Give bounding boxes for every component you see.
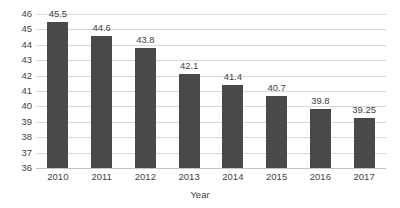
bar-value-label: 41.4 xyxy=(213,72,253,82)
x-axis-tick-label: 2016 xyxy=(298,172,342,182)
y-axis-tick-label: 40 xyxy=(2,101,32,111)
gridline xyxy=(36,76,386,77)
bar xyxy=(266,96,287,168)
x-axis-tick-label: 2011 xyxy=(80,172,124,182)
y-axis-tick-label: 45 xyxy=(2,24,32,34)
x-axis-tick-label: 2010 xyxy=(36,172,80,182)
y-axis-tick-label: 38 xyxy=(2,132,32,142)
plot-area xyxy=(36,14,386,168)
x-axis-title: Year xyxy=(0,189,400,200)
gridline xyxy=(36,60,386,61)
y-axis-tick-label: 41 xyxy=(2,86,32,96)
gridline xyxy=(36,122,386,123)
y-axis-tick-label: 42 xyxy=(2,71,32,81)
bar-value-label: 40.7 xyxy=(257,83,297,93)
y-axis-tick-label: 46 xyxy=(2,9,32,19)
gridline xyxy=(36,106,386,107)
bar xyxy=(91,36,112,168)
x-axis-tick-label: 2013 xyxy=(167,172,211,182)
y-axis-tick-label: 39 xyxy=(2,117,32,127)
x-axis-tick-label: 2012 xyxy=(123,172,167,182)
bar-value-label: 39.25 xyxy=(344,105,384,115)
bar-value-label: 45.5 xyxy=(38,9,78,19)
bar xyxy=(354,118,375,168)
gridline xyxy=(36,168,386,169)
x-axis-tick-label: 2015 xyxy=(255,172,299,182)
x-axis-tick-label: 2014 xyxy=(211,172,255,182)
bar-value-label: 39.8 xyxy=(300,96,340,106)
bar xyxy=(222,85,243,168)
gridline xyxy=(36,14,386,15)
bar xyxy=(135,48,156,168)
gridline xyxy=(36,45,386,46)
y-axis-tick-label: 43 xyxy=(2,55,32,65)
y-axis-tick-label: 37 xyxy=(2,148,32,158)
bar xyxy=(179,74,200,168)
gridline xyxy=(36,137,386,138)
bar-value-label: 42.1 xyxy=(169,61,209,71)
bar-value-label: 43.8 xyxy=(125,35,165,45)
bar-value-label: 44.6 xyxy=(82,23,122,33)
y-axis-tick-label: 44 xyxy=(2,40,32,50)
bar xyxy=(47,22,68,168)
bar-chart: Gallons Year 464544434241403938373645.52… xyxy=(0,0,400,208)
bar xyxy=(310,109,331,168)
gridline xyxy=(36,91,386,92)
y-axis-tick-label: 36 xyxy=(2,163,32,173)
gridline xyxy=(36,153,386,154)
x-axis-tick-label: 2017 xyxy=(342,172,386,182)
